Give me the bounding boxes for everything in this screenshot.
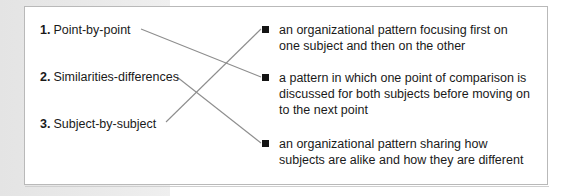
right-item-a-text: an organizational pattern focusing first… (279, 22, 530, 54)
left-item-1[interactable]: 1.Point-by-point (40, 23, 131, 38)
right-item-b[interactable]: a pattern in which one point of comparis… (262, 70, 530, 118)
right-item-c-text: an organizational pattern sharing how su… (279, 136, 530, 168)
left-item-3-number: 3. (40, 117, 50, 131)
square-bullet-icon (262, 140, 269, 147)
right-item-c[interactable]: an organizational pattern sharing how su… (262, 136, 530, 168)
right-item-b-text: a pattern in which one point of comparis… (279, 70, 530, 118)
square-bullet-icon (262, 26, 269, 33)
square-bullet-icon (262, 74, 269, 81)
left-item-3-label: Subject-by-subject (53, 117, 156, 131)
left-item-2-label: Similarities-differences (53, 70, 179, 84)
left-item-1-label: Point-by-point (53, 23, 130, 37)
right-item-a[interactable]: an organizational pattern focusing first… (262, 22, 530, 54)
left-item-2[interactable]: 2.Similarities-differences (40, 70, 179, 85)
left-item-1-number: 1. (40, 23, 50, 37)
left-item-2-number: 2. (40, 70, 50, 84)
left-item-3[interactable]: 3.Subject-by-subject (40, 117, 156, 132)
card-shadow (25, 186, 549, 187)
